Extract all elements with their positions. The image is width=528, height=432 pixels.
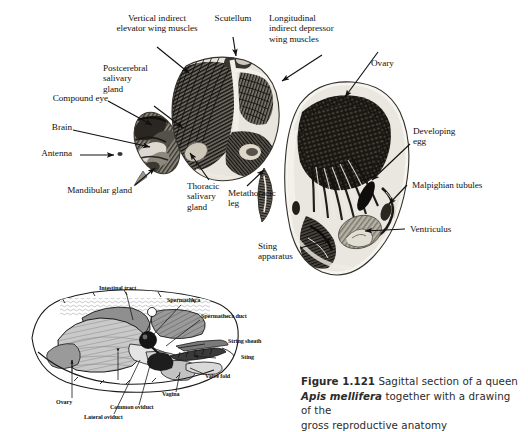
label-metathoracic-leg: Metathoracic leg — [228, 188, 288, 209]
caption-species: Apis mellifera — [301, 390, 382, 402]
label-lateral-oviduct: Lateral oviduct — [84, 414, 144, 421]
figure-number: Figure 1.121 — [301, 375, 375, 387]
label-spermatheca-duct: Spermatheca duct — [201, 313, 261, 320]
label-intestinal-tract: Intestinal tract — [99, 285, 159, 292]
label-sting: Sting — [241, 354, 269, 361]
label-ovary-drawing: Ovary — [56, 399, 88, 406]
label-malpighian-tubules: Malpighian tubules — [412, 180, 522, 190]
caption-part3: gross reproductive anatomy — [301, 419, 447, 431]
figure-1-121 — [0, 0, 528, 432]
label-brain: Brain — [10, 122, 72, 132]
caption-part1: Sagittal section of a queen — [378, 375, 518, 387]
label-compound-eye: Compound eye — [10, 93, 108, 103]
figure-caption: Figure 1.121 Sagittal section of a queen… — [301, 374, 523, 432]
label-common-oviduct: Common oviduct — [110, 404, 172, 411]
label-mandibular-gland: Mandibular gland — [10, 185, 132, 195]
label-postcerebral-salivary-gland: Postcerebral salivary gland — [103, 63, 169, 94]
label-scutellum: Scutellum — [200, 13, 266, 23]
label-vagina: Vagina — [162, 391, 196, 398]
label-ventriculus: Ventriculus — [410, 224, 488, 234]
label-developing-egg: Developing egg — [413, 126, 475, 147]
label-sting-apparatus: Sting apparatus — [258, 241, 314, 262]
label-spermatheca: Spermatheca — [167, 297, 219, 304]
label-antenna: Antenna — [6, 148, 72, 158]
label-valve-fold: Valve fold — [205, 373, 247, 380]
label-string-sheath: String sheath — [228, 338, 274, 345]
label-ovary-photo: Ovary — [371, 58, 423, 68]
antenna-structure — [117, 152, 122, 156]
label-longitudinal-indirect-depressor-wing-muscles: Longitudinal indirect depressor wing mus… — [269, 13, 365, 44]
